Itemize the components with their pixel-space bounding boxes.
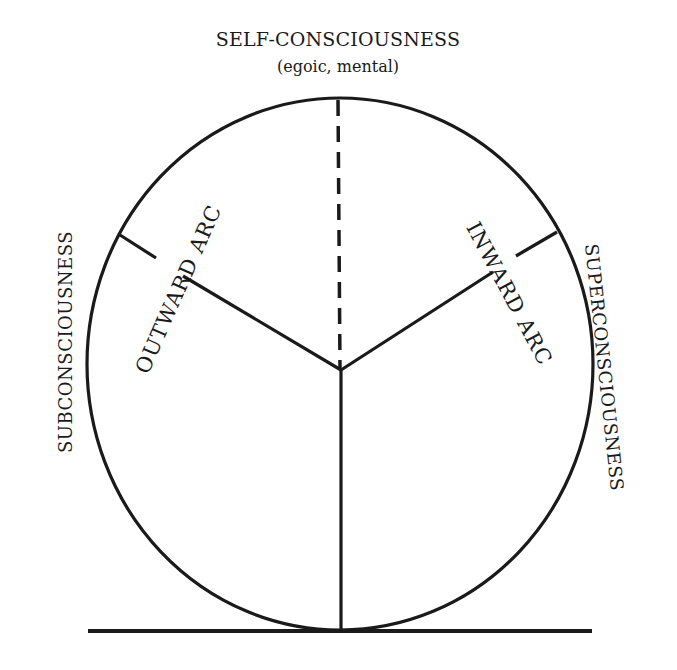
- outward-arm-outer-segment: [120, 235, 156, 258]
- inward-arm-outer-segment: [516, 232, 557, 256]
- consciousness-cycle-diagram: SELF-CONSCIOUSNESS (egoic, mental) SUBCO…: [0, 0, 677, 670]
- inward-arm-inner-segment: [341, 272, 493, 370]
- self-consciousness-sublabel: (egoic, mental): [277, 57, 399, 76]
- subconsciousness-label: SUBCONSCIOUSNESS: [55, 231, 76, 453]
- self-consciousness-label: SELF-CONSCIOUSNESS: [216, 28, 460, 50]
- superconsciousness-label: SUPERCONSCIOUSNESS: [581, 243, 628, 492]
- outward-arm-inner-segment: [183, 276, 341, 370]
- outward-arc-label: OUTWARD ARC: [131, 201, 227, 377]
- self-consciousness-dashed-axis: [338, 100, 340, 368]
